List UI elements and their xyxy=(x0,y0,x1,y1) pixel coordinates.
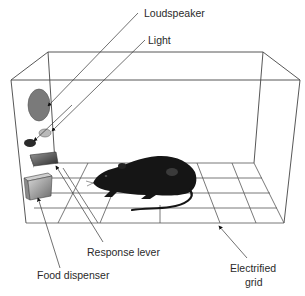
label-electrified-grid-line1: Electrified xyxy=(230,262,276,274)
food-dispenser xyxy=(24,173,52,200)
rat xyxy=(86,156,196,210)
chamber xyxy=(11,52,300,223)
response-lever xyxy=(30,152,58,168)
label-loudspeaker: Loudspeaker xyxy=(144,7,205,19)
label-light: Light xyxy=(148,34,171,46)
label-food-dispenser: Food dispenser xyxy=(37,269,110,281)
skinner-box-diagram: Loudspeaker Light Response lever Food di… xyxy=(0,0,305,296)
light-bulb-dark xyxy=(24,139,36,147)
leader-lines xyxy=(34,13,247,268)
loudspeaker xyxy=(28,89,50,121)
label-response-lever: Response lever xyxy=(87,246,160,258)
label-electrified-grid-line2: grid xyxy=(245,276,263,288)
